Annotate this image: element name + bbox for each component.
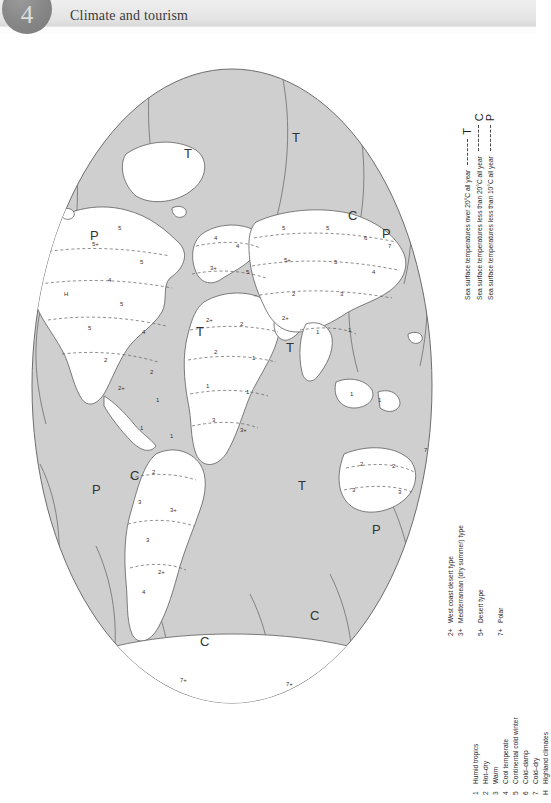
climate-legend-key: 2 [481,784,491,795]
subtype-legend-key: 7+ [496,623,506,636]
climate-legend-row: 6 Cold–damp [521,717,531,795]
svg-text:P: P [92,482,101,497]
climate-legend-key: 4 [501,784,511,795]
climate-type-legend: 1 Humid tropics 2 Hot–dry 3 Warm 4 Cool … [471,717,551,795]
svg-text:5+: 5+ [284,257,291,263]
climate-legend-row: 7 Cold–dry [531,717,541,795]
svg-text:2+: 2+ [282,315,289,321]
header-sheen [0,26,536,34]
world-climate-map: T T T T T T T C C C C P P P P 55+ 54 [0,34,536,803]
subtype-legend-label: West coast desert type [446,556,456,623]
svg-text:T: T [190,698,198,713]
sea-temp-legend-row: Sea surface temperatures over 20°C all y… [462,111,474,300]
svg-text:7+: 7+ [360,675,367,681]
world-map-graphic: T T T T T T T C C C C P P P P 55+ 54 [0,34,536,803]
subtype-legend-label: Mediterranean (dry summer) type [456,525,466,623]
subtype-legend-row: 2+ West coast desert type [446,525,456,636]
svg-text:7+: 7+ [180,677,187,683]
climate-legend-label: Cold–damp [521,750,531,784]
svg-text:T: T [286,340,294,355]
dashed-line-icon [490,125,492,151]
page-header: 4 Climate and tourism [0,0,536,34]
climate-legend-label: Hot–dry [481,761,491,784]
sea-temp-legend-label: Sea surface temperatures over 20°C all y… [462,170,474,300]
svg-text:3+: 3+ [240,427,247,433]
climate-subtype-legend: 2+ West coast desert type 3+ Mediterrane… [446,525,506,636]
climate-legend-row: H Highland climates [541,717,551,795]
climate-legend-key: 5 [511,784,521,795]
sea-temp-legend-row: Sea surface temperatures less than 10°C … [485,111,497,300]
climate-legend-row: 3 Warm [491,717,501,795]
climate-legend-key: 7 [531,784,541,795]
svg-text:T: T [298,478,306,493]
climate-legend-row: 5 Continental cold winter [511,717,521,795]
subtype-legend-row: 7+ Polar [496,525,506,636]
svg-text:T: T [212,752,220,767]
subtype-legend-key: 2+ [446,623,456,636]
climate-legend-label: Warm [491,767,501,784]
svg-text:2+: 2+ [118,385,125,391]
climate-legend-label: Continental cold winter [511,717,521,784]
subtype-legend-row: 5+ Desert type [476,525,486,636]
svg-text:4: 4 [428,525,432,531]
sea-temp-legend-label: Sea surface temperatures less than 10°C … [485,156,497,300]
svg-text:C: C [310,608,319,623]
svg-text:C: C [130,468,139,483]
svg-text:5+: 5+ [92,241,99,247]
climate-legend-row: 1 Humid tropics [471,717,481,795]
subtype-legend-key: 3+ [456,623,466,636]
climate-legend-label: Humid tropics [471,744,481,784]
climate-legend-key: 3 [491,784,501,795]
sea-temperature-legend: Sea surface temperatures over 20°C all y… [462,111,497,300]
subtype-legend-label: Desert type [476,589,486,623]
svg-text:C: C [200,634,209,649]
svg-text:T: T [196,324,204,339]
subtype-legend-row: 3+ Mediterranean (dry summer) type [456,525,466,636]
svg-text:T: T [184,146,192,161]
sea-temp-legend-row: Sea surface temperatures less than 20°C … [474,111,486,300]
svg-text:2+: 2+ [158,569,165,575]
page-title: Climate and tourism [70,8,188,24]
climate-legend-key: 6 [521,784,531,795]
svg-text:3+: 3+ [210,265,217,271]
svg-text:7+: 7+ [96,675,103,681]
climate-legend-row: 4 Cool temperate [501,717,511,795]
subtype-legend-key: 5+ [476,623,486,636]
dashed-line-icon [467,139,469,165]
sea-temp-legend-label: Sea surface temperatures less than 20°C … [474,156,486,300]
climate-legend-row: 2 Hot–dry [481,717,491,795]
svg-text:P: P [372,522,381,537]
climate-legend-key: H [541,784,551,795]
svg-text:7+: 7+ [286,681,293,687]
climate-legend-label: Cool temperate [501,739,511,784]
svg-text:H: H [64,291,68,297]
svg-text:T: T [292,130,300,145]
svg-text:P: P [382,226,391,241]
climate-legend-key: 1 [471,784,481,795]
svg-text:3+: 3+ [170,507,177,513]
svg-text:C: C [348,208,357,223]
sea-temp-legend-code: P [485,111,497,121]
dashed-line-icon [478,125,480,151]
climate-legend-label: Highland climates [541,732,551,784]
svg-text:2+: 2+ [206,317,213,323]
sea-temp-legend-code: T [462,125,474,135]
subtype-legend-label: Polar [496,608,506,623]
climate-legend-label: Cold–dry [531,758,541,784]
